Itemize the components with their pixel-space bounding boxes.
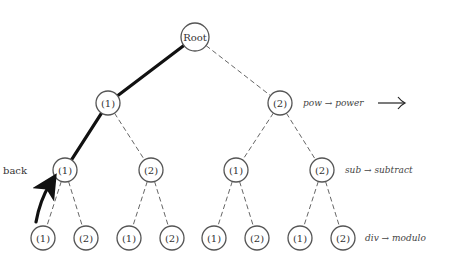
node-label: (2) <box>144 165 158 176</box>
level3-node-0: (1) <box>31 226 55 250</box>
node-label: (1) <box>229 165 243 176</box>
node-label: (2) <box>315 165 329 176</box>
node-label: Root <box>183 32 207 43</box>
edge-l1-to-l2-2 <box>243 113 274 160</box>
edge-l2-to-l3-1 <box>69 181 83 226</box>
annotation-div-modulo: div → modulo <box>365 233 426 243</box>
node-label: (1) <box>293 233 307 244</box>
edge-l2-to-l3-4 <box>218 181 233 226</box>
node-label: (1) <box>207 233 221 244</box>
level2-node-0: (1) <box>53 158 77 182</box>
node-label: (1) <box>36 233 50 244</box>
edge-l1-to-l2-1 <box>114 113 144 160</box>
level3-node-7: (2) <box>331 226 355 250</box>
level2-node-1: (2) <box>139 158 163 182</box>
edge-l2-to-l3-5 <box>240 181 254 226</box>
node-label: (1) <box>58 165 72 176</box>
search-tree-diagram: Root(1)(2)(1)(2)(1)(2)(1)(2)(1)(2)(1)(2)… <box>0 0 452 267</box>
edges <box>47 45 340 226</box>
node-label: (1) <box>122 233 136 244</box>
back-label: back <box>3 165 28 176</box>
edge-l1-to-l2-0 <box>71 113 101 160</box>
level3-node-6: (1) <box>288 226 312 250</box>
root-node: Root <box>181 23 209 51</box>
node-label: (2) <box>336 233 350 244</box>
level1-node-0: (1) <box>96 91 120 115</box>
annotation-sub-subtract: sub → subtract <box>345 165 413 175</box>
node-label: (2) <box>273 98 287 109</box>
edge-root-to-l1-1 <box>206 46 270 96</box>
back-arrow-icon <box>36 184 50 222</box>
level3-node-5: (2) <box>245 226 269 250</box>
annotation-pow-power: pow → power <box>303 98 364 108</box>
node-label: (2) <box>250 233 264 244</box>
edge-l1-to-l2-3 <box>286 113 315 160</box>
level2-node-2: (1) <box>224 158 248 182</box>
edge-l2-to-l3-6 <box>304 181 319 226</box>
level3-node-3: (2) <box>160 226 184 250</box>
edge-l2-to-l3-7 <box>326 181 340 226</box>
next-arrow-icon <box>378 97 405 109</box>
level1-node-1: (2) <box>268 91 292 115</box>
node-label: (2) <box>79 233 93 244</box>
edge-root-to-l1-0 <box>118 45 184 95</box>
level2-node-3: (2) <box>310 158 334 182</box>
level3-node-2: (1) <box>117 226 141 250</box>
node-label: (2) <box>165 233 179 244</box>
level3-node-4: (1) <box>202 226 226 250</box>
level3-node-1: (2) <box>74 226 98 250</box>
tree-svg: Root(1)(2)(1)(2)(1)(2)(1)(2)(1)(2)(1)(2)… <box>0 0 452 267</box>
edge-l2-to-l3-3 <box>155 181 169 226</box>
node-label: (1) <box>101 98 115 109</box>
edge-l2-to-l3-2 <box>133 181 148 226</box>
